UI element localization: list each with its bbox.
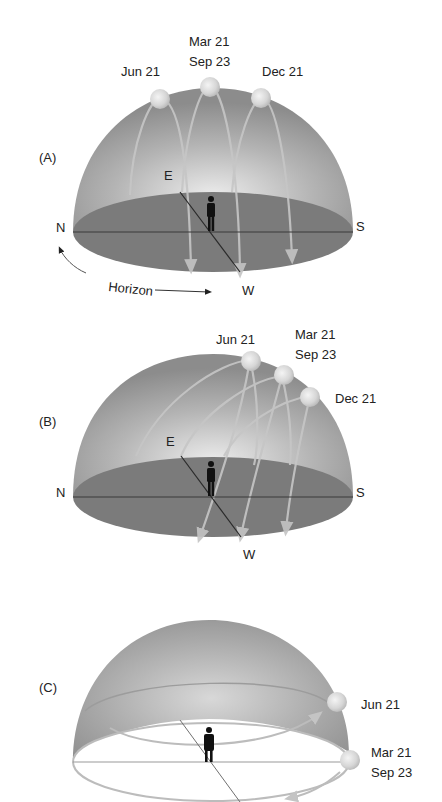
panel-label-b: (B) [39, 414, 56, 429]
panel-c: (C) Jun 21 Mar 21 Sep 23 [39, 620, 412, 802]
sun-label-mar21: Mar 21 [371, 745, 411, 760]
direction-south: S [356, 485, 365, 500]
sun-dec21 [300, 387, 320, 407]
horizon-arrow-left [60, 249, 86, 273]
horizon-arrow-right [155, 290, 209, 292]
sun-label-sep23: Sep 23 [371, 765, 412, 780]
sun-dec21 [251, 88, 271, 108]
sun-label-jun21: Jun 21 [216, 332, 255, 347]
sun-label-mar21: Mar 21 [295, 327, 335, 342]
direction-east: E [164, 168, 173, 183]
sun-label-jun21: Jun 21 [361, 697, 400, 712]
sun-label-sep23: Sep 23 [189, 54, 230, 69]
sun-equinox [340, 750, 360, 770]
sun-label-mar21: Mar 21 [189, 34, 229, 49]
sun-label-sep23: Sep 23 [295, 347, 336, 362]
panel-b: (B) Jun 21 Mar 21 Sep 23 Dec 21 E [39, 327, 376, 562]
direction-north: N [56, 220, 65, 235]
panel-label-c: (C) [39, 680, 57, 695]
sun-equinox [200, 77, 220, 97]
horizon-label: Horizon [108, 279, 154, 299]
sun-jun21 [150, 89, 170, 109]
sun-label-dec21: Dec 21 [262, 64, 303, 79]
sun-equinox [274, 365, 294, 385]
direction-east: E [166, 434, 175, 449]
direction-south: S [356, 219, 365, 234]
direction-north: N [56, 485, 65, 500]
panel-a: (A) Jun 21 Mar 21 Sep 23 [39, 34, 365, 299]
direction-west: W [243, 547, 256, 562]
sun-jun21 [241, 351, 261, 371]
sun-path-diagram: (A) Jun 21 Mar 21 Sep 23 [0, 0, 442, 802]
panel-label-a: (A) [39, 150, 56, 165]
direction-west: W [242, 283, 255, 298]
sun-label-dec21: Dec 21 [335, 391, 376, 406]
sun-jun21 [327, 692, 347, 712]
sun-label-jun21: Jun 21 [121, 64, 160, 79]
